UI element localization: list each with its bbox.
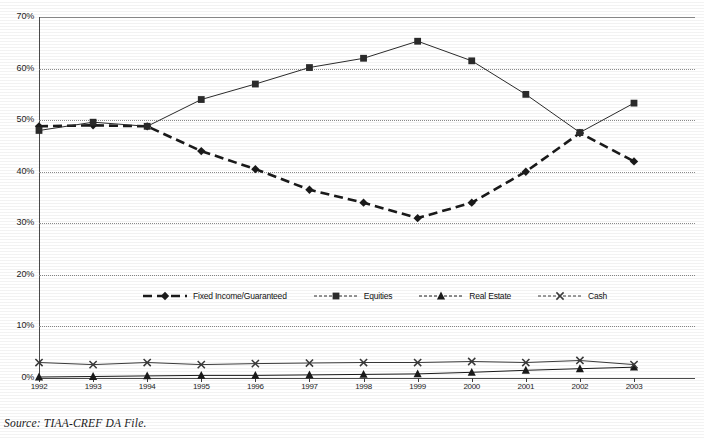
y-axis-tick-label: 30%: [0, 217, 34, 227]
y-axis-tick-label: 10%: [0, 320, 34, 330]
x-axis-tick-label: 1993: [73, 382, 113, 391]
x-axis-tick-label: 2003: [614, 382, 654, 391]
y-axis-tick-label: 20%: [0, 269, 34, 279]
chart-legend: Fixed Income/GuaranteedEquitiesReal Esta…: [142, 288, 682, 304]
x-axis-tick-label: 1992: [19, 382, 59, 391]
x-axis-tick-label: 1997: [289, 382, 329, 391]
data-point-marker: [144, 123, 151, 130]
chart-page: 0%10%20%30%40%50%60%70% 1992199319941995…: [0, 0, 704, 438]
legend-item: Equities: [313, 290, 393, 302]
legend-label: Fixed Income/Guaranteed: [193, 291, 287, 301]
legend-label: Cash: [588, 291, 607, 301]
x-axis-tick-label: 1998: [344, 382, 384, 391]
series-real-estate: [35, 363, 638, 381]
data-point-marker: [631, 100, 638, 107]
series-line: [39, 367, 634, 377]
data-point-marker: [468, 57, 475, 64]
x-axis-tick-label: 2002: [560, 382, 600, 391]
x-axis-tick-label: 1994: [127, 382, 167, 391]
data-point-marker: [577, 129, 584, 136]
x-axis-tick-label: 1996: [235, 382, 275, 391]
series-line: [39, 41, 634, 132]
data-point-marker: [414, 38, 421, 45]
plot-area: [39, 17, 695, 379]
source-note: Source: TIAA-CREF DA File.: [4, 417, 147, 429]
series-line: [39, 125, 634, 218]
x-axis-tick-label: 2001: [506, 382, 546, 391]
square-marker-icon: [313, 290, 359, 302]
x-axis-tick-label: 1995: [181, 382, 221, 391]
legend-item: Fixed Income/Guaranteed: [142, 290, 287, 302]
diamond-marker-icon: [142, 290, 188, 302]
legend-label: Real Estate: [469, 291, 511, 301]
y-axis-tick-label: 50%: [0, 114, 34, 124]
series-equities: [36, 38, 638, 136]
data-point-marker: [36, 127, 43, 134]
x-axis-tick-label: 1999: [398, 382, 438, 391]
y-axis-tick-label: 40%: [0, 166, 34, 176]
series-cash: [35, 357, 637, 368]
legend-item: Cash: [537, 290, 607, 302]
triangle-marker-icon: [418, 290, 464, 302]
data-point-marker: [306, 64, 313, 71]
y-axis-tick-label: 0%: [0, 372, 34, 382]
y-axis-tick-label: 60%: [0, 63, 34, 73]
data-series-layer: [39, 17, 695, 379]
data-point-marker: [413, 214, 421, 222]
series-line: [39, 361, 634, 365]
data-point-marker: [198, 96, 205, 103]
data-point-marker: [522, 91, 529, 98]
data-point-marker: [305, 186, 313, 194]
data-point-marker: [359, 198, 367, 206]
series-fixed-income-guaranteed: [35, 121, 638, 222]
y-axis-tick-label: 70%: [0, 11, 34, 21]
data-point-marker: [90, 119, 97, 126]
data-point-marker: [197, 147, 205, 155]
x-axis-tick-label: 2000: [452, 382, 492, 391]
data-point-marker: [360, 55, 367, 62]
x-marker-icon: [537, 290, 583, 302]
data-point-marker: [251, 165, 259, 173]
data-point-marker: [252, 81, 259, 88]
legend-label: Equities: [364, 291, 393, 301]
legend-item: Real Estate: [418, 290, 511, 302]
